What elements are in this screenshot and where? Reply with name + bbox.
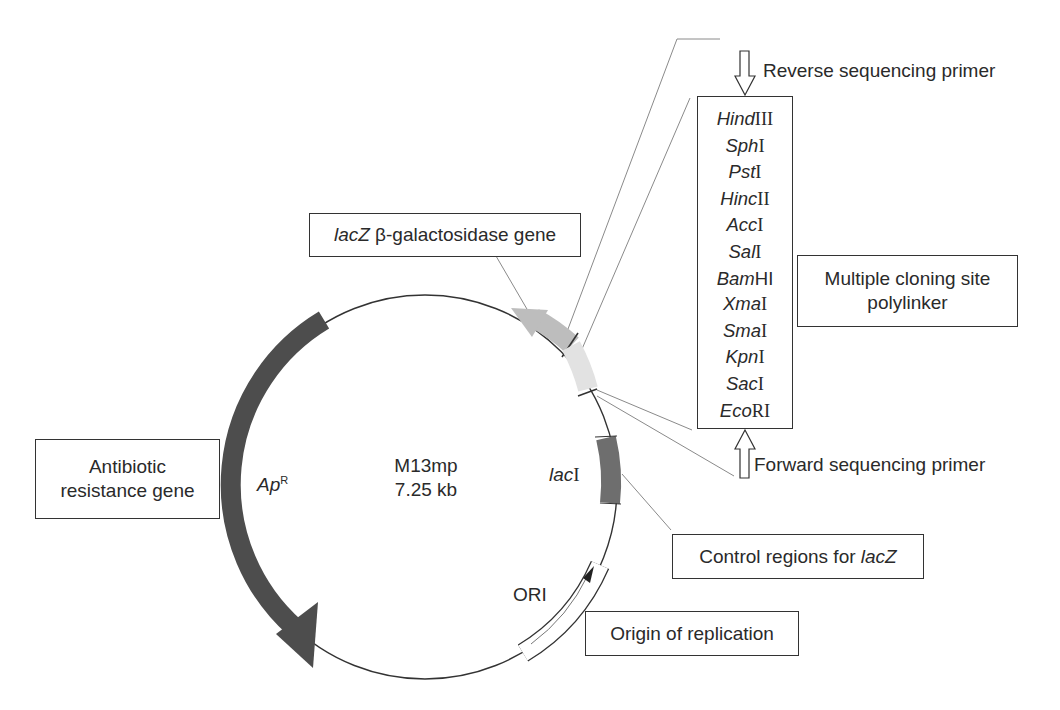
enzyme-suffix: HI: [755, 268, 774, 289]
enzyme-prefix: Hinc: [720, 188, 757, 209]
enzyme-smai: SmaI: [698, 318, 792, 345]
reverse-primer-arrow: [735, 51, 755, 95]
enzyme-hindiii: HindIII: [698, 106, 792, 133]
enzyme-ecori: EcoRI: [698, 398, 792, 425]
enzyme-prefix: Sph: [725, 135, 758, 156]
enzyme-acci: AccI: [698, 212, 792, 239]
control-text: Control regions for: [699, 546, 861, 567]
enzyme-bamhi: BamHI: [698, 266, 792, 292]
mcs-callout-line2: polylinker: [867, 291, 947, 315]
enzyme-psti: PstI: [698, 159, 792, 186]
antibiotic-callout-box: Antibiotic resistance gene: [35, 439, 220, 519]
origin-callout-text: Origin of replication: [610, 622, 774, 646]
origin-callout-box: Origin of replication: [585, 611, 799, 656]
enzyme-prefix: Bam: [717, 268, 755, 289]
plasmid-name: M13mp: [385, 454, 467, 478]
enzyme-prefix: Pst: [729, 161, 756, 182]
enzyme-suffix: I: [758, 136, 764, 156]
enzyme-suffix: I: [757, 215, 763, 235]
control-italic: lacZ: [861, 546, 897, 567]
enzyme-suffix: I: [758, 347, 764, 367]
restriction-site-list: HindIII SphI PstI HincII AccI SalI BamHI…: [697, 96, 793, 429]
enzyme-hincii: HincII: [698, 186, 792, 213]
lacz-rest: β-galactosidase gene: [370, 224, 556, 245]
enzyme-suffix: II: [757, 189, 769, 209]
laci-label-italic: lac: [549, 464, 573, 485]
enzyme-kpni: KpnI: [698, 344, 792, 371]
mcs-callout-box: Multiple cloning site polylinker: [797, 255, 1018, 327]
enzyme-prefix: Eco: [720, 400, 752, 421]
enzyme-xmai: XmaI: [698, 291, 792, 318]
enzyme-sali: SalI: [698, 239, 792, 266]
enzyme-prefix: Sal: [729, 241, 756, 262]
enzyme-suffix: I: [761, 321, 767, 341]
reverse-primer-label: Reverse sequencing primer: [763, 59, 995, 83]
antibiotic-callout-line2: resistance gene: [60, 479, 194, 503]
forward-primer-arrow: [735, 430, 755, 478]
lacz-callout-box: lacZ β-galactosidase gene: [309, 213, 581, 257]
enzyme-prefix: Acc: [726, 214, 757, 235]
lacz-callout-text: lacZ β-galactosidase gene: [334, 223, 556, 247]
apr-label-italic: Ap: [257, 474, 280, 495]
enzyme-suffix: I: [755, 242, 761, 262]
laci-label: lacI: [549, 463, 580, 487]
enzyme-prefix: Sac: [726, 373, 758, 394]
apr-label-sup: R: [280, 474, 288, 486]
enzyme-prefix: Xma: [723, 293, 761, 314]
laci-segment: [606, 438, 611, 503]
laci-label-roman: I: [573, 464, 579, 485]
enzyme-suffix: I: [755, 162, 761, 182]
lacz-italic: lacZ: [334, 224, 370, 245]
mcs-segment: [571, 346, 588, 389]
plasmid-size: 7.25 kb: [385, 478, 467, 502]
enzyme-suffix: I: [758, 374, 764, 394]
enzyme-suffix: III: [755, 109, 773, 129]
ori-label: ORI: [513, 583, 547, 607]
enzyme-sphi: SphI: [698, 133, 792, 160]
control-regions-callout-box: Control regions for lacZ: [672, 534, 924, 579]
enzyme-suffix: RI: [752, 401, 771, 421]
mcs-callout-line1: Multiple cloning site: [825, 267, 991, 291]
control-regions-text: Control regions for lacZ: [699, 545, 896, 569]
enzyme-suffix: I: [761, 294, 767, 314]
forward-primer-label: Forward sequencing primer: [754, 453, 985, 477]
enzyme-prefix: Kpn: [725, 346, 758, 367]
enzyme-saci: SacI: [698, 371, 792, 398]
apr-label: ApR: [257, 468, 288, 497]
enzyme-prefix: Sma: [723, 320, 761, 341]
enzyme-prefix: Hind: [717, 108, 755, 129]
antibiotic-callout-line1: Antibiotic: [89, 455, 166, 479]
